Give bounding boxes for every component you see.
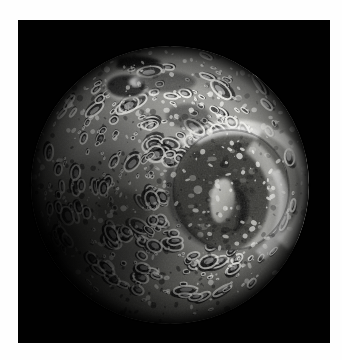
- space-background: [18, 20, 330, 343]
- moon-illustration: [18, 20, 330, 343]
- image-canvas: Grayscale image of Saturn's moon Mimas s…: [0, 0, 342, 360]
- limb-darkening: [31, 46, 309, 324]
